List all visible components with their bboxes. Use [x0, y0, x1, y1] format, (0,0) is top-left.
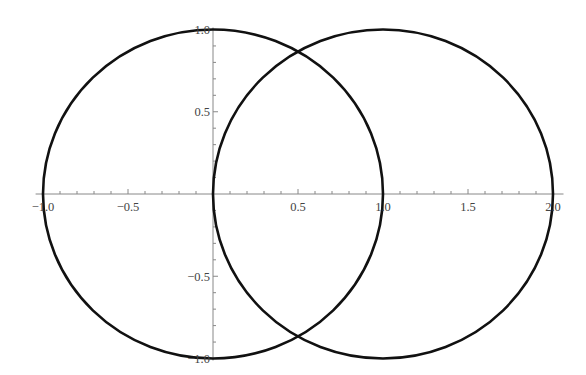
- x-tick-labels: −1.0−0.50.51.01.52.0: [32, 200, 561, 214]
- plot-area: −1.0−0.50.51.01.52.0 1.00.5−0.5−1.0: [0, 0, 586, 375]
- x-tick-label: 2.0: [545, 200, 561, 214]
- y-tick-label: 1.0: [194, 23, 210, 37]
- y-tick-label: −0.5: [187, 270, 210, 284]
- y-tick-label: 0.5: [194, 105, 210, 119]
- y-tick-label: −1.0: [187, 352, 210, 366]
- x-tick-label: 0.5: [290, 200, 306, 214]
- x-tick-label: 1.5: [460, 200, 476, 214]
- x-tick-label: 1.0: [375, 200, 391, 214]
- axes: [36, 28, 564, 361]
- x-tick-label: −0.5: [117, 200, 140, 214]
- x-tick-label: −1.0: [32, 200, 55, 214]
